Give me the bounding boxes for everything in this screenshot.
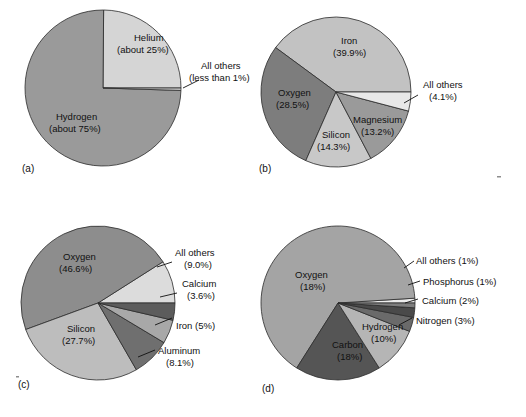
label-b-oxygen-line1: Oxygen [278, 87, 311, 98]
label-magnesium-line1: Magnesium [353, 114, 402, 125]
label-helium-line2: (about 25%) [117, 44, 169, 55]
label-d-carbon-line1: Carbon [332, 339, 363, 350]
label-b-silicon-line2: (14.3%) [317, 141, 350, 152]
leader-d-all-others [404, 261, 414, 268]
panel-letter-d: (d) [262, 383, 274, 394]
label-d-oxygen-line2: (18%) [300, 281, 325, 292]
composition-pie-figure: Helium (about 25%) Hydrogen (about 75%) … [0, 0, 526, 417]
label-b-all-others-line1: All others [423, 79, 463, 90]
label-d-calcium: Calcium (2%) [422, 295, 479, 306]
label-c-aluminum-line2: (8.1%) [166, 357, 194, 368]
label-helium-line1: Helium [134, 32, 164, 43]
label-d-carbon-line2: (18%) [337, 351, 362, 362]
label-c-silicon-line1: Silicon [67, 323, 95, 334]
label-c-aluminum-line1: Aluminum [158, 345, 200, 356]
label-b-oxygen-line2: (28.5%) [276, 99, 309, 110]
figure-svg: Helium (about 25%) Hydrogen (about 75%) … [0, 0, 526, 417]
panel-d: Oxygen (18%) Carbon (18%) Hydrogen (10%)… [261, 226, 496, 394]
label-c-iron-line1: Iron (5%) [176, 320, 215, 331]
panel-a: Helium (about 25%) Hydrogen (about 75%) … [22, 10, 250, 174]
panel-letter-c: (c) [18, 379, 30, 390]
label-d-hydrogen-line2: (10%) [371, 333, 396, 344]
label-c-calcium-line2: (3.6%) [187, 290, 215, 301]
label-hydrogen-line2: (about 75%) [49, 123, 101, 134]
panel-letter-a: (a) [22, 163, 34, 174]
label-d-hydrogen-line1: Hydrogen [362, 321, 403, 332]
label-magnesium-line2: (13.2%) [361, 126, 394, 137]
panel-letter-b: (b) [259, 163, 271, 174]
label-c-all-others-line1: All others [175, 247, 215, 258]
scan-speck-right [497, 176, 501, 178]
label-c-calcium-line1: Calcium [182, 278, 216, 289]
panel-c: Oxygen (46.6%) Silicon (27.7%) All other… [18, 226, 216, 390]
label-c-silicon-line2: (27.7%) [62, 335, 95, 346]
label-d-phosphorus: Phosphorus (1%) [423, 276, 496, 287]
pie-c-slices[interactable] [21, 226, 175, 380]
label-a-all-others-line1: All others [201, 60, 241, 71]
label-a-all-others-line2: (less than 1%) [189, 72, 250, 83]
label-d-all-others: All others (1%) [416, 255, 478, 266]
label-iron-line2: (39.9%) [333, 47, 366, 58]
label-c-all-others-line2: (9.0%) [184, 259, 212, 270]
label-b-all-others-line2: (4.1%) [429, 91, 457, 102]
scan-speck-left [16, 376, 19, 378]
label-iron-line1: Iron [341, 35, 357, 46]
label-d-nitrogen: Nitrogen (3%) [416, 315, 475, 326]
label-d-oxygen-line1: Oxygen [295, 269, 328, 280]
label-c-oxygen-line2: (46.6%) [59, 263, 92, 274]
label-b-silicon-line1: Silicon [322, 129, 350, 140]
panel-b: Iron (39.9%) Oxygen (28.5%) Silicon (14.… [259, 17, 463, 174]
label-c-oxygen-line1: Oxygen [63, 251, 96, 262]
label-hydrogen-line1: Hydrogen [56, 111, 97, 122]
